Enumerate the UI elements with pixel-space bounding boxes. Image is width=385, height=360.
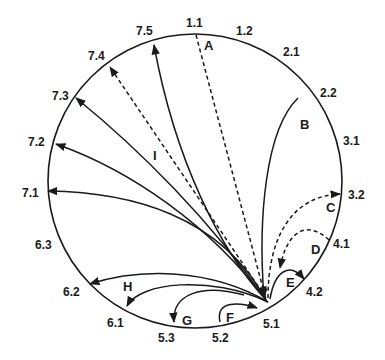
node-label-4-2: 4.2	[306, 285, 323, 299]
connection-h-61	[127, 285, 268, 306]
connection-label-f: F	[226, 310, 234, 325]
connection-label-e: E	[286, 275, 295, 290]
node-label-2-2: 2.2	[320, 86, 337, 100]
connection-i-75	[154, 45, 266, 300]
node-label-5-2: 5.2	[212, 331, 229, 345]
connection-d	[280, 230, 329, 268]
circular-diagram: 1.1 1.2 2.1 2.2 3.1 3.2 4.1 4.2 5.1 5.2 …	[0, 0, 385, 360]
connection-f	[219, 304, 257, 322]
connection-h-62	[90, 274, 268, 302]
node-label-2-1: 2.1	[283, 45, 300, 59]
node-label-5-3: 5.3	[158, 331, 175, 345]
node-label-6-1: 6.1	[107, 316, 124, 330]
node-label-7-4: 7.4	[88, 49, 105, 63]
connection-i-72	[56, 144, 266, 300]
connection-i-71	[48, 191, 266, 300]
connection-i-74	[110, 67, 266, 298]
node-label-6-2: 6.2	[63, 285, 80, 299]
node-label-3-1: 3.1	[343, 134, 360, 148]
node-label-4-1: 4.1	[333, 237, 350, 251]
node-label-7-5: 7.5	[136, 24, 153, 38]
connection-label-b: B	[300, 117, 309, 132]
node-label-7-1: 7.1	[22, 186, 39, 200]
node-label-6-3: 6.3	[35, 238, 52, 252]
connection-label-a: A	[204, 38, 214, 53]
node-label-7-3: 7.3	[52, 89, 69, 103]
connection-i-73	[76, 98, 266, 300]
connection-label-g: G	[182, 313, 192, 328]
connection-label-c: C	[326, 200, 336, 215]
node-label-1-2: 1.2	[236, 24, 253, 38]
connection-b	[262, 98, 298, 298]
connection-label-h: H	[123, 279, 132, 294]
connection-label-i: I	[153, 148, 157, 163]
node-label-3-2: 3.2	[348, 188, 365, 202]
connection-a	[196, 35, 265, 296]
node-label-1-1: 1.1	[186, 16, 203, 30]
connection-label-d: D	[311, 242, 320, 257]
node-label-5-1: 5.1	[263, 317, 280, 331]
node-label-7-2: 7.2	[28, 135, 45, 149]
